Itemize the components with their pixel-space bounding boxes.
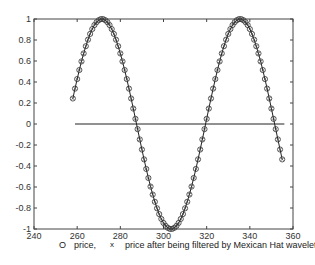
y-tick-label: 0: [26, 119, 31, 129]
y-tick-label: 0.8: [18, 35, 31, 45]
y-tick-label: 0.4: [18, 77, 31, 87]
y-tick-label: -0.4: [15, 161, 31, 171]
legend-marker-circle: O: [59, 240, 66, 250]
y-tick-label: -1: [23, 224, 31, 234]
y-tick-label: -0.8: [15, 203, 31, 213]
y-tick-label: 0.2: [18, 98, 31, 108]
y-tick-label: -0.6: [15, 182, 31, 192]
y-tick-label: 1: [26, 14, 31, 24]
legend-marker-x: x: [110, 240, 114, 249]
legend-label-filtered: price after being filtered by Mexican Ha…: [125, 240, 315, 250]
legend-label-price: price,: [74, 240, 96, 250]
y-tick-label: 0.6: [18, 56, 31, 66]
y-tick-label: -0.2: [15, 140, 31, 150]
chart: 240260280300320340360-1-0.8-0.6-0.4-0.20…: [0, 0, 315, 265]
